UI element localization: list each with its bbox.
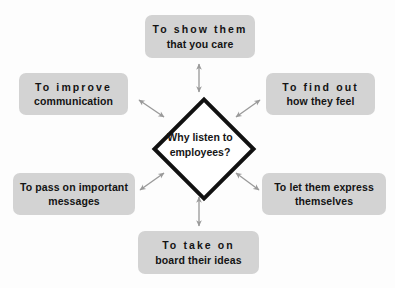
node-line-1: To take on xyxy=(162,238,235,253)
node-let-them-express-themselves[interactable]: To let them express themselves xyxy=(262,173,386,215)
node-line-2: how they feel xyxy=(287,94,355,109)
node-line-2: that you care xyxy=(167,37,234,52)
node-pass-on-important-messages[interactable]: To pass on important messages xyxy=(13,173,135,215)
node-line-1: To let them express xyxy=(274,180,374,195)
center-line-2: employees? xyxy=(170,145,231,160)
diagram-canvas: To show them that you care To improve co… xyxy=(0,0,395,288)
node-line-1: To find out xyxy=(282,80,359,95)
node-line-2: communication xyxy=(34,94,113,109)
node-line-2: board their ideas xyxy=(155,253,241,268)
center-line-1: Why listen to xyxy=(167,130,232,145)
node-show-them-care[interactable]: To show them that you care xyxy=(145,15,255,58)
node-line-1: To show them xyxy=(152,22,247,37)
node-line-2: themselves xyxy=(295,194,353,209)
node-line-1: To pass on important xyxy=(20,180,128,195)
center-node-label: Why listen to employees? xyxy=(144,98,256,192)
node-find-out-how-they-feel[interactable]: To find out how they feel xyxy=(266,73,375,115)
node-line-1: To improve xyxy=(35,80,112,95)
node-improve-communication[interactable]: To improve communication xyxy=(19,73,128,115)
node-line-2: messages xyxy=(48,194,100,209)
node-take-on-board-their-ideas[interactable]: To take on board their ideas xyxy=(138,231,259,274)
center-node-diamond[interactable]: Why listen to employees? xyxy=(150,98,250,192)
